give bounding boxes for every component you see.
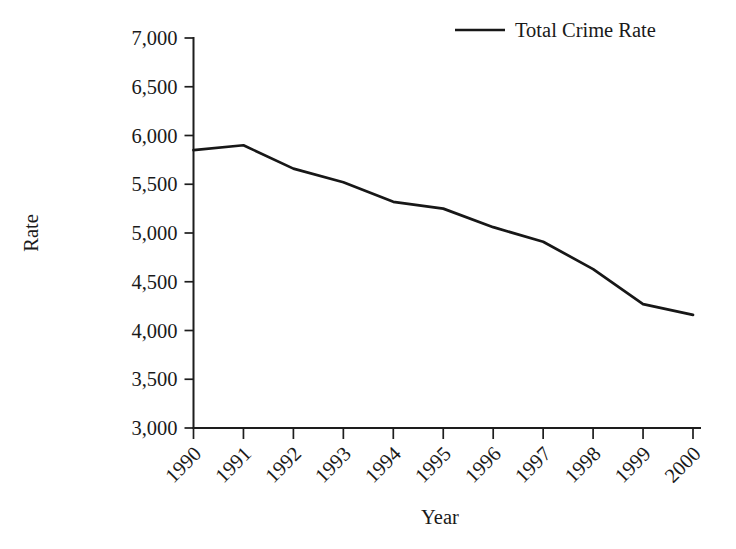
x-axis-title: Year [421,506,459,528]
y-axis-ticks: 3,0003,5004,0004,5005,0005,5006,0006,500… [131,27,193,439]
y-axis-title: Rate [20,214,42,252]
x-tick-label: 1999 [610,442,655,487]
x-tick-label: 1998 [560,442,605,487]
chart-legend: Total Crime Rate [455,19,656,41]
y-tick-label: 6,500 [131,76,177,98]
plot-axes [194,38,701,428]
series-line-total-crime-rate [194,145,694,315]
y-tick-label: 4,500 [131,271,177,293]
y-tick-label: 3,500 [131,368,177,390]
y-tick-label: 5,000 [131,222,177,244]
y-tick-label: 4,000 [131,320,177,342]
y-tick-label: 6,000 [131,125,177,147]
line-chart: 3,0003,5004,0004,5005,0005,5006,0006,500… [0,0,736,549]
chart-canvas: 3,0003,5004,0004,5005,0005,5006,0006,500… [0,0,736,549]
data-series-group [194,145,694,315]
x-tick-label: 1992 [261,442,306,487]
x-tick-label: 1990 [161,442,206,487]
y-tick-label: 7,000 [131,27,177,49]
x-tick-label: 1996 [460,442,505,487]
x-tick-label: 1997 [510,442,555,487]
y-tick-label: 3,000 [131,417,177,439]
x-tick-label: 1991 [211,442,256,487]
legend-label: Total Crime Rate [515,19,656,41]
y-tick-label: 5,500 [131,173,177,195]
x-tick-label: 1993 [311,442,356,487]
x-tick-label: 1994 [361,442,406,487]
x-axis-ticks: 1990199119921993199419951996199719981999… [161,428,705,487]
x-tick-label: 2000 [660,442,705,487]
x-tick-label: 1995 [411,442,456,487]
